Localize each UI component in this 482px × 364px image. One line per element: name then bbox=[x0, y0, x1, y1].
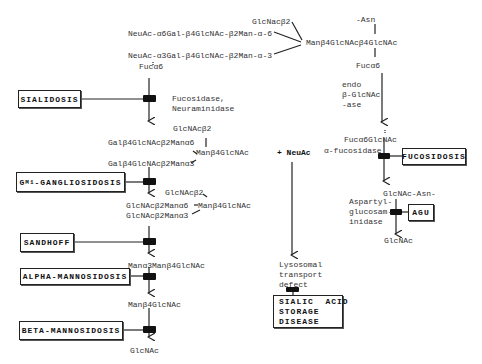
int1-a3: Galβ4GlcNAcβ2Manα3 bbox=[108, 159, 194, 168]
int2-a6: GlcNAcβ2Manα6 bbox=[126, 201, 188, 210]
disease-agu: AGU bbox=[408, 204, 434, 221]
int3: Manα3Manβ4GlcNAc bbox=[128, 261, 205, 270]
int2-a3: GlcNAcβ2Manα3 bbox=[126, 211, 188, 220]
pathway-diagram: GlcNacβ2 NeuAc-α6Gal-β4GlcNAc-β2Man-α-6 … bbox=[0, 0, 482, 364]
enzyme-fucosidase-neuraminidase: Fucosidase, Neuraminidase bbox=[172, 94, 234, 114]
enzyme-aspartylglucosaminidase: Aspartyl- glucosam- inidase bbox=[349, 197, 392, 227]
left-product: GlcNAc bbox=[130, 346, 159, 355]
int1-top: GlcNAcβ2 bbox=[173, 124, 211, 133]
enzyme-endo-glcnacase: endo β-GlcNAc -ase bbox=[342, 80, 380, 110]
start-fuc-core: Fucα6 bbox=[356, 61, 380, 70]
int2-core: Manβ4GlcNAc bbox=[198, 201, 251, 210]
int2-top: GlcNAcβ2 bbox=[165, 188, 203, 197]
disease-alpha-mannosidosis: ALPHA-MANNOSIDOSIS bbox=[20, 268, 130, 285]
disease-sialic-acid-storage: SIALIC ACID STORAGE DISEASE bbox=[273, 295, 343, 328]
gm1-sub: M1 bbox=[25, 179, 34, 186]
right-product: GlcNAc bbox=[384, 236, 413, 245]
disease-sialidosis: SIALIDOSIS bbox=[18, 90, 81, 108]
lysosomal-transport-defect: Lysosomal transport defect bbox=[279, 260, 322, 290]
start-branch-top: GlcNacβ2 bbox=[252, 17, 290, 26]
neuac-released: + NeuAc bbox=[277, 148, 311, 157]
int1-core: Manβ4GlcNAc bbox=[196, 148, 249, 157]
start-branch-a6: NeuAc-α6Gal-β4GlcNAc-β2Man-α-6 bbox=[128, 29, 272, 38]
start-branch-a3: NeuAc-α3Gal-β4GlcNAc-β2Man-α-3 bbox=[128, 51, 272, 60]
enzyme-alpha-fucosidase: α-fucosidase bbox=[324, 146, 382, 155]
start-fuc-left: Fucα6 bbox=[139, 62, 163, 71]
start-asn: -Asn bbox=[356, 15, 375, 24]
int1-a6: Galβ4GlcNAcβ2Manα6 bbox=[108, 138, 194, 147]
disease-gm1-gangliosidosis: GM1-GANGLIOSIDOSIS bbox=[16, 172, 125, 192]
gm1-rest: -GANGLIOSIDOSIS bbox=[35, 178, 122, 187]
disease-beta-mannosidosis: BETA-MANNOSIDOSIS bbox=[19, 321, 123, 340]
start-core: Manβ4GlcNAcβ4GlcNAc bbox=[306, 38, 397, 47]
right-int1: Fucα6GlcNAc bbox=[344, 135, 397, 144]
disease-fucosidosis: FUCOSIDOSIS bbox=[402, 148, 466, 165]
disease-sandhoff: SANDHOFF bbox=[20, 233, 74, 252]
int4: Manβ4GlcNAc bbox=[128, 300, 181, 309]
